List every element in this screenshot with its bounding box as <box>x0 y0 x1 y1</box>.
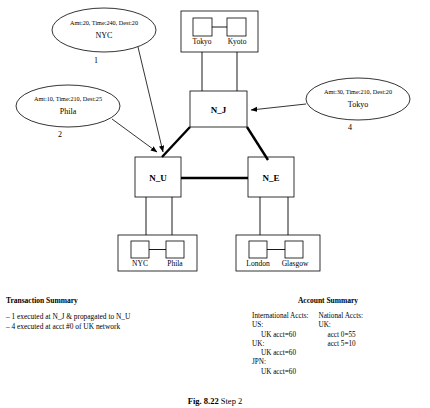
message-1-ellipse[interactable] <box>52 8 156 52</box>
national-accounts-column: National Accts: UK: acct 0=55 acct 5=10 <box>318 312 363 377</box>
international-group-us: US: <box>252 321 308 330</box>
message-4-origin: Tokyo <box>348 100 368 109</box>
leaf-label-london: London <box>246 259 270 268</box>
leaf-label-tokyo: Tokyo <box>192 37 211 46</box>
node-ne-label: N_E <box>262 173 279 183</box>
message-bubble-1[interactable]: Amt:20, Time:240, Dest:20 NYC 1 <box>52 8 163 152</box>
figure-caption-text: Step 2 <box>221 396 243 406</box>
leaf-box-glasgow[interactable] <box>285 241 303 258</box>
national-accounts-heading: National Accts: <box>318 312 363 321</box>
message-4-number: 4 <box>348 123 352 132</box>
international-value-us: UK acct=60 <box>252 331 308 340</box>
figure-caption-label: Fig. 8.22 <box>188 396 219 406</box>
message-4-ellipse[interactable] <box>306 78 410 120</box>
cluster-uk: London Glasgow <box>236 235 320 271</box>
node-nu[interactable]: N_U <box>135 157 181 197</box>
leaf-box-phila[interactable] <box>166 241 184 258</box>
leaf-box-nyc[interactable] <box>131 241 149 258</box>
international-accounts-heading: International Accts: <box>252 312 308 321</box>
transaction-summary-title: Transaction Summary <box>6 296 221 305</box>
leaf-label-phila: Phila <box>167 259 183 268</box>
account-summary-panel: Account Summary International Accts: US:… <box>252 296 430 377</box>
national-value-acct5: acct 5=10 <box>318 340 363 349</box>
node-nj[interactable]: N_J <box>190 91 247 127</box>
leaf-label-glasgow: Glasgow <box>282 259 309 268</box>
national-value-acct0: acct 0=55 <box>318 331 363 340</box>
transaction-summary-line: – 1 executed at N_J & propagated to N_U <box>6 312 221 322</box>
transaction-summary-panel: Transaction Summary – 1 executed at N_J … <box>6 296 221 331</box>
leaf-label-nyc: NYC <box>132 259 148 268</box>
message-1-origin: NYC <box>96 31 113 40</box>
leaf-box-tokyo[interactable] <box>193 18 212 36</box>
leaf-box-london[interactable] <box>249 241 267 258</box>
backbone-link-nj-nu <box>162 127 190 157</box>
message-2-ellipse[interactable] <box>16 85 120 127</box>
cluster-jpn: Tokyo Kyoto <box>181 11 258 52</box>
node-nj-label: N_J <box>211 105 227 115</box>
message-2-arrow <box>112 119 157 152</box>
message-2-origin: Phila <box>60 107 77 116</box>
message-bubble-4[interactable]: Amt:30, Time:210, Dest:20 Tokyo 4 <box>251 78 410 132</box>
international-value-uk: UK acct=60 <box>252 349 308 358</box>
figure-canvas: Tokyo Kyoto N_J N_U N_E <box>0 0 430 408</box>
message-2-details: Amt:10, Time:210, Dest:25 <box>34 95 102 102</box>
node-nu-label: N_U <box>149 173 167 183</box>
node-ne[interactable]: N_E <box>248 157 294 197</box>
summary-area: Transaction Summary – 1 executed at N_J … <box>0 296 430 386</box>
message-1-arrow <box>138 47 163 152</box>
message-2-number: 2 <box>58 130 62 139</box>
leaf-label-kyoto: Kyoto <box>228 37 247 46</box>
account-summary-title: Account Summary <box>252 296 430 305</box>
international-accounts-column: International Accts: US: UK acct=60 UK: … <box>252 312 308 377</box>
leaf-box-kyoto[interactable] <box>227 18 246 36</box>
message-4-arrow <box>251 104 306 110</box>
international-value-jpn: UK acct=60 <box>252 368 308 377</box>
backbone-link-nj-ne <box>247 127 268 160</box>
international-group-uk: UK: <box>252 340 308 349</box>
message-bubble-2[interactable]: Amt:10, Time:210, Dest:25 Phila 2 <box>16 85 157 152</box>
message-1-details: Amt:20, Time:240, Dest:20 <box>70 19 138 26</box>
national-group-uk: UK: <box>318 321 363 330</box>
message-1-number: 1 <box>94 56 98 65</box>
message-4-details: Amt:30, Time:210, Dest:20 <box>324 88 392 95</box>
account-summary-columns: International Accts: US: UK acct=60 UK: … <box>252 312 430 377</box>
cluster-us-border <box>118 235 197 271</box>
cluster-us: NYC Phila <box>118 235 197 271</box>
international-group-jpn: JPN: <box>252 358 308 367</box>
figure-caption: Fig. 8.22 Step 2 <box>0 396 430 406</box>
transaction-summary-line: – 4 executed at acct #0 of UK network <box>6 322 221 332</box>
